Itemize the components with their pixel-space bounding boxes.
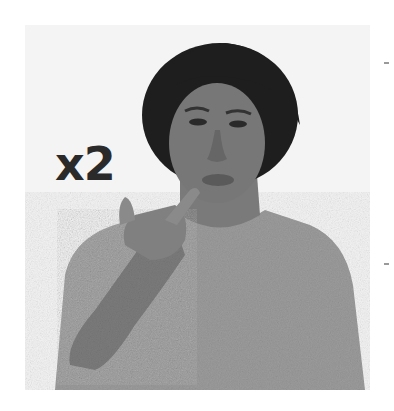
edge-mark [384,263,389,265]
person-figure [25,25,370,390]
sign-photo [25,25,370,390]
edge-mark [384,62,389,64]
repetition-label: x2 [55,141,115,187]
